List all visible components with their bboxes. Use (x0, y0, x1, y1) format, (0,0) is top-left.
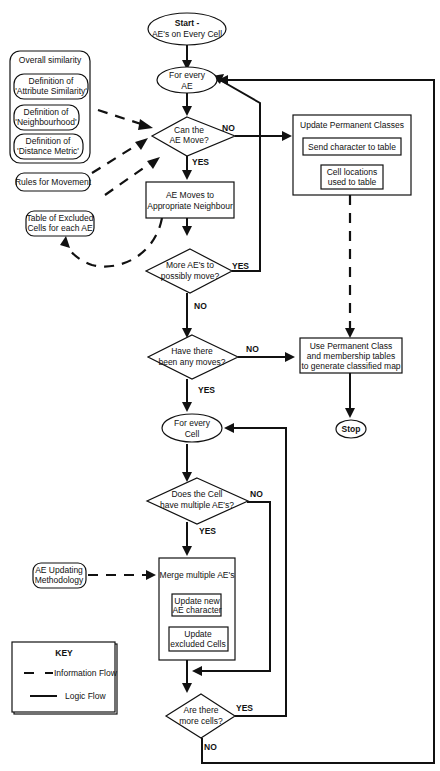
legend-key: KEY Information Flow Logic Flow (12, 642, 118, 714)
decision-multiple-aes: Does the Cell have multiple AE's? (147, 478, 248, 524)
svg-text:have multiple AE's?: have multiple AE's? (160, 500, 234, 510)
label-no: NO (194, 301, 207, 311)
process-merge-aes: Merge multiple AE's Update new AE charac… (159, 558, 235, 660)
svg-text:Can the: Can the (174, 125, 204, 135)
svg-text:Rules for Movement: Rules for Movement (15, 177, 92, 187)
svg-text:been any moves?: been any moves? (158, 357, 225, 367)
svg-text:AE Move?: AE Move? (169, 135, 208, 145)
svg-text:Start -: Start - (175, 18, 200, 28)
svg-text:AE: AE (181, 81, 193, 91)
svg-text:More AE's to: More AE's to (166, 260, 214, 270)
svg-text:For every: For every (169, 70, 206, 80)
process-use-permanent-class: Use Permanent Class and membership table… (300, 338, 402, 373)
svg-text:'Distance Metric': 'Distance Metric' (17, 146, 79, 156)
svg-text:Send character to table: Send character to table (308, 142, 396, 152)
label-yes: YES (199, 526, 216, 536)
label-yes: YES (198, 385, 215, 395)
svg-text:more cells?: more cells? (179, 716, 223, 726)
label-yes: YES (232, 261, 249, 271)
label-no: NO (246, 344, 259, 354)
svg-text:Update Permanent Classes: Update Permanent Classes (300, 120, 404, 130)
svg-text:used to table: used to table (328, 177, 377, 187)
svg-text:Have there: Have there (171, 346, 213, 356)
decision-more-cells: Are there more cells? (166, 694, 235, 738)
svg-text:Stop: Stop (342, 424, 361, 434)
input-rules-for-movement: Rules for Movement (15, 173, 92, 191)
node-stop: Stop (336, 420, 366, 438)
input-overall-similarity: Overall similarity Definition of 'Attrib… (10, 51, 90, 163)
label-yes: YES (192, 157, 209, 167)
svg-text:possibly move?: possibly move? (161, 271, 220, 281)
svg-text:Use Permanent Class: Use Permanent Class (310, 341, 393, 351)
svg-text:Methodology: Methodology (35, 575, 84, 585)
label-yes: YES (236, 703, 253, 713)
svg-text:Does the Cell: Does the Cell (171, 489, 222, 499)
svg-text:Merge multiple AE's: Merge multiple AE's (160, 570, 235, 580)
node-start: Start - AE's on Every Cell (148, 13, 226, 45)
svg-text:Definition of: Definition of (26, 136, 72, 146)
svg-text:Logic Flow: Logic Flow (65, 691, 106, 701)
svg-text:Update: Update (184, 629, 212, 639)
decision-more-aes: More AE's to possibly move? (146, 249, 232, 293)
svg-text:Are there: Are there (184, 705, 219, 715)
svg-text:KEY: KEY (55, 648, 73, 658)
svg-text:Overall similarity: Overall similarity (19, 55, 82, 65)
node-for-every-ae: For every AE (157, 67, 217, 93)
svg-text:'Neighbourhood': 'Neighbourhood' (15, 117, 77, 127)
decision-any-moves: Have there been any moves? (148, 335, 238, 379)
input-excluded-cells-table: Table of Excluded Cells for each AE (26, 211, 94, 236)
label-no: NO (222, 123, 235, 133)
svg-text:'Attribute Similarity': 'Attribute Similarity' (15, 86, 87, 96)
process-update-permanent-classes: Update Permanent Classes Send character … (293, 115, 411, 195)
process-ae-moves: AE Moves to Appropriate Neighbour (146, 182, 234, 218)
svg-text:excluded Cells: excluded Cells (170, 639, 225, 649)
svg-text:AE's on Every Cell: AE's on Every Cell (152, 29, 222, 39)
svg-text:AE character: AE character (172, 605, 221, 615)
svg-text:Cells for each AE: Cells for each AE (27, 223, 93, 233)
flowchart: Start - AE's on Every Cell For every AE … (0, 0, 440, 771)
svg-text:Definition of: Definition of (29, 76, 75, 86)
svg-text:and membership tables: and membership tables (307, 351, 395, 361)
svg-text:Appropriate Neighbour: Appropriate Neighbour (147, 201, 233, 211)
svg-text:AE Updating: AE Updating (35, 565, 83, 575)
svg-text:Definition of: Definition of (24, 107, 70, 117)
label-no: NO (250, 489, 263, 499)
input-ae-updating-methodology: AE Updating Methodology (33, 563, 86, 588)
label-no: NO (204, 742, 217, 752)
node-for-every-cell: For every Cell (162, 414, 222, 442)
svg-text:Table of Excluded: Table of Excluded (26, 213, 93, 223)
svg-text:to generate classified map: to generate classified map (301, 361, 400, 371)
svg-text:Cell: Cell (185, 429, 200, 439)
svg-text:Cell locations: Cell locations (327, 167, 378, 177)
svg-text:For every: For every (174, 418, 211, 428)
svg-text:Information Flow: Information Flow (54, 668, 118, 678)
svg-text:AE Moves to: AE Moves to (166, 190, 214, 200)
